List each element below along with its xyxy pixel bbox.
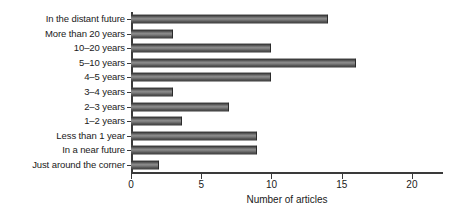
x-axis-tick-label: 15 xyxy=(336,180,347,190)
chart-row: 10–20 years xyxy=(131,41,433,56)
bar xyxy=(131,160,159,169)
y-axis-tick-label: 5–10 years xyxy=(79,58,125,68)
bar xyxy=(131,15,328,24)
chart-row: In the distant future xyxy=(131,12,433,27)
y-axis-tick-label: Just around the corner xyxy=(32,160,125,170)
chart-row: In a near future xyxy=(131,143,433,158)
chart-row: 4–5 years xyxy=(131,70,433,85)
chart-row: Less than 1 year xyxy=(131,128,433,143)
bar xyxy=(131,58,356,67)
bar-chart: In the distant futureMore than 20 years1… xyxy=(0,0,463,211)
y-axis-tick-label: 10–20 years xyxy=(74,44,125,54)
bar xyxy=(131,87,173,96)
chart-row: 3–4 years xyxy=(131,85,433,100)
x-axis-tick-label: 10 xyxy=(266,180,277,190)
bar xyxy=(131,29,173,38)
chart-row: 1–2 years xyxy=(131,114,433,129)
x-axis-line xyxy=(131,172,443,174)
x-axis-title: Number of articles xyxy=(131,195,443,205)
bar xyxy=(131,131,257,140)
bar xyxy=(131,44,271,53)
x-axis-tick-label: 5 xyxy=(198,180,204,190)
chart-row: More than 20 years xyxy=(131,27,433,42)
y-axis-tick-label: In a near future xyxy=(62,145,125,155)
bar xyxy=(131,117,182,126)
y-axis-tick-label: In the distant future xyxy=(46,15,125,25)
bar xyxy=(131,146,257,155)
x-axis-tick-label: 0 xyxy=(128,180,134,190)
bar xyxy=(131,73,271,82)
x-axis-tick-label: 20 xyxy=(406,180,417,190)
plot-area: In the distant futureMore than 20 years1… xyxy=(131,12,433,172)
y-axis-tick-label: 1–2 years xyxy=(84,116,125,126)
y-axis-tick-label: Less than 1 year xyxy=(56,131,125,141)
chart-row: 2–3 years xyxy=(131,99,433,114)
y-axis-tick-label: More than 20 years xyxy=(45,29,125,39)
bar xyxy=(131,102,229,111)
y-axis-tick-label: 3–4 years xyxy=(84,87,125,97)
chart-row: 5–10 years xyxy=(131,56,433,71)
chart-row: Just around the corner xyxy=(131,157,433,172)
y-axis-tick-label: 4–5 years xyxy=(84,73,125,83)
y-axis-tick-label: 2–3 years xyxy=(84,102,125,112)
